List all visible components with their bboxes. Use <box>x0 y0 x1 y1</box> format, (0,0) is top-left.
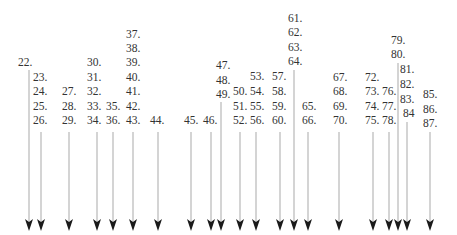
down-arrow-icon <box>335 132 343 231</box>
number-label: 38. <box>126 43 140 55</box>
number-label: 82. <box>400 79 414 91</box>
number-label: 30. <box>87 57 101 69</box>
number-label: 69. <box>333 101 347 113</box>
number-label: 50. <box>233 86 247 98</box>
number-label: 49. <box>216 89 230 101</box>
down-arrow-icon <box>236 132 244 231</box>
number-label: 24. <box>33 86 47 98</box>
down-arrow-icon <box>369 132 377 231</box>
number-label: 59. <box>272 101 286 113</box>
number-label: 58. <box>272 86 286 98</box>
number-label: 42. <box>126 101 140 113</box>
number-label: 40. <box>126 72 140 84</box>
number-label: 62. <box>288 27 302 39</box>
number-label: 46. <box>203 115 217 127</box>
down-arrow-icon <box>290 70 298 231</box>
number-label: 84 <box>403 108 415 120</box>
number-label: 52. <box>233 115 247 127</box>
number-label: 55. <box>250 101 264 113</box>
number-label: 31. <box>87 72 101 84</box>
number-label: 39. <box>126 57 140 69</box>
number-label: 56. <box>250 115 264 127</box>
number-label: 75. <box>365 115 379 127</box>
number-label: 66. <box>302 115 316 127</box>
number-label: 74. <box>365 101 379 113</box>
number-label: 67. <box>333 72 347 84</box>
number-label: 86. <box>423 104 437 116</box>
down-arrow-icon <box>252 132 260 231</box>
number-label: 79. <box>391 35 405 47</box>
number-label: 43. <box>126 115 140 127</box>
number-label: 68. <box>333 86 347 98</box>
number-label: 54. <box>250 86 264 98</box>
number-label: 22. <box>18 57 32 69</box>
down-arrow-icon <box>25 70 33 231</box>
number-label: 76. <box>382 86 396 98</box>
down-arrow-icon <box>276 132 284 231</box>
down-arrow-icon <box>207 132 215 231</box>
number-label: 41. <box>126 86 140 98</box>
number-label: 25. <box>33 101 47 113</box>
number-label: 34. <box>87 115 101 127</box>
down-arrow-icon <box>304 132 312 231</box>
number-label: 33. <box>87 101 101 113</box>
number-label: 81. <box>400 64 414 76</box>
number-label: 85. <box>423 89 437 101</box>
number-label: 23. <box>33 72 47 84</box>
down-arrow-icon <box>217 102 225 231</box>
number-label: 77. <box>382 101 396 113</box>
down-arrow-icon <box>109 132 117 231</box>
number-label: 80. <box>391 49 405 61</box>
down-arrow-icon <box>426 132 434 231</box>
number-label: 65. <box>302 101 316 113</box>
number-label: 64. <box>288 56 302 68</box>
down-arrow-icon <box>187 132 195 231</box>
number-label: 35. <box>106 101 120 113</box>
down-arrow-icon <box>93 132 101 231</box>
number-label: 87. <box>423 118 437 130</box>
number-label: 26. <box>33 115 47 127</box>
down-arrow-icon <box>154 132 162 231</box>
number-label: 36. <box>106 115 120 127</box>
number-label: 47. <box>216 60 230 72</box>
number-label: 45. <box>184 115 198 127</box>
numbered-arrow-diagram: 22.23.24.25.26.27.28.29.30.31.32.33.34.3… <box>0 0 457 235</box>
number-label: 28. <box>62 101 76 113</box>
number-label: 70. <box>333 115 347 127</box>
down-arrow-icon <box>65 132 73 231</box>
number-label: 53. <box>250 71 264 83</box>
number-label: 73. <box>365 86 379 98</box>
number-label: 51. <box>233 101 247 113</box>
number-label: 60. <box>272 115 286 127</box>
number-label: 61. <box>288 13 302 25</box>
number-label: 29. <box>62 115 76 127</box>
number-label: 83. <box>400 94 414 106</box>
down-arrow-icon <box>385 132 393 231</box>
down-arrow-icon <box>403 122 411 231</box>
number-label: 72. <box>365 72 379 84</box>
down-arrow-icon <box>129 132 137 231</box>
number-label: 63. <box>288 42 302 54</box>
number-label: 44. <box>150 115 164 127</box>
down-arrow-icon <box>37 132 45 231</box>
number-label: 37. <box>126 29 140 41</box>
number-label: 32. <box>87 86 101 98</box>
number-label: 48. <box>216 75 230 87</box>
number-label: 57. <box>272 71 286 83</box>
number-label: 78. <box>382 115 396 127</box>
number-label: 27. <box>62 86 76 98</box>
